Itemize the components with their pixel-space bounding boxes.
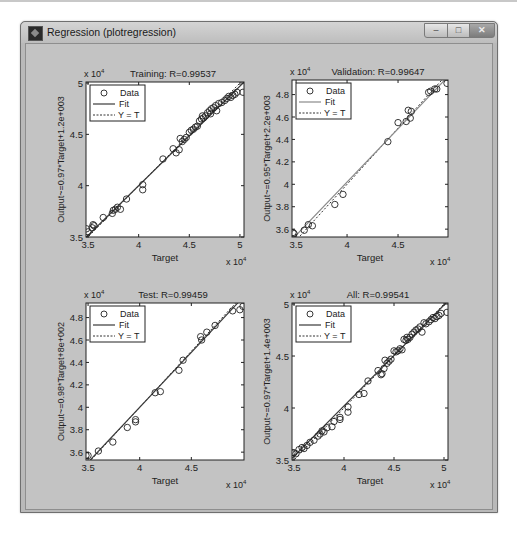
x-tick-label: 5 bbox=[237, 239, 242, 250]
legend-yt-label: Y = T bbox=[324, 331, 346, 341]
x-tick-label: 4.5 bbox=[387, 462, 400, 473]
y-exponent-label: x 104 bbox=[290, 66, 311, 77]
x-tick-label: 4.5 bbox=[391, 239, 404, 250]
y-tick-label: 4 bbox=[78, 402, 83, 413]
legend[interactable]: DataFitY = T bbox=[90, 306, 145, 342]
x-tick-label: 4 bbox=[136, 239, 141, 250]
x-tick-label: 3.5 bbox=[287, 462, 300, 473]
legend-fit-label: Fit bbox=[119, 99, 129, 109]
y-tick-label: 4 bbox=[284, 179, 289, 190]
x-tick-label: 5 bbox=[441, 462, 446, 473]
y-exponent-label: x 104 bbox=[290, 289, 311, 300]
x-exponent-label: x 104 bbox=[430, 256, 451, 267]
x-tick-label: 4 bbox=[137, 462, 142, 473]
x-exponent-label: x 104 bbox=[226, 256, 247, 267]
legend-yt-label: Y = T bbox=[118, 110, 140, 120]
y-tick-label: 4.5 bbox=[276, 351, 289, 362]
y-tick-label: 4.8 bbox=[70, 312, 83, 323]
y-exponent-label: x 104 bbox=[84, 68, 105, 79]
legend-data-label: Data bbox=[326, 86, 345, 96]
y-tick-label: 4 bbox=[78, 180, 83, 191]
x-tick-label: 3.5 bbox=[289, 239, 302, 250]
y-tick-label: 5 bbox=[284, 299, 289, 310]
x-exponent-label: x 104 bbox=[430, 479, 451, 490]
y-exponent-label: x 104 bbox=[84, 289, 105, 300]
y-tick-label: 3.8 bbox=[70, 424, 83, 435]
y-tick-label: 3.6 bbox=[276, 224, 289, 235]
y-tick-label: 4.2 bbox=[70, 379, 83, 390]
legend-data-label: Data bbox=[120, 309, 139, 319]
y-tick-label: 3.6 bbox=[70, 447, 83, 458]
x-tick-label: 4 bbox=[344, 239, 349, 250]
legend-data-label: Data bbox=[120, 88, 139, 98]
plot-all: 3.544.553.544.55All: R=0.99541TargetOutp… bbox=[262, 289, 451, 490]
y-tick-label: 4.4 bbox=[276, 134, 289, 145]
y-tick-label: 3.5 bbox=[70, 232, 83, 243]
plot-title: Validation: R=0.99647 bbox=[331, 66, 424, 77]
x-exponent-label: x 104 bbox=[226, 479, 247, 490]
y-axis-label: Output~=0.95*Target+2.2e+003 bbox=[262, 95, 272, 222]
y-tick-label: 3.5 bbox=[276, 455, 289, 466]
legend-fit-label: Fit bbox=[119, 320, 129, 330]
plot-validation: 3.544.53.63.844.24.44.64.8Validation: R=… bbox=[262, 66, 451, 267]
legend-data-label: Data bbox=[326, 309, 345, 319]
x-axis-label: Target bbox=[357, 252, 384, 263]
plot-title: Test: R=0.99459 bbox=[138, 289, 207, 300]
y-tick-label: 4.8 bbox=[276, 89, 289, 100]
x-axis-label: Target bbox=[152, 252, 179, 263]
legend-fit-label: Fit bbox=[325, 320, 335, 330]
y-axis-label: Output~=0.97*Target+1.4e+003 bbox=[262, 318, 272, 445]
y-tick-label: 4.6 bbox=[276, 112, 289, 123]
y-tick-label: 4.6 bbox=[70, 335, 83, 346]
legend-fit-label: Fit bbox=[325, 97, 335, 107]
x-tick-label: 3.5 bbox=[81, 239, 94, 250]
x-axis-label: Target bbox=[152, 475, 179, 486]
x-tick-label: 3.5 bbox=[81, 462, 94, 473]
y-tick-label: 4.4 bbox=[70, 357, 83, 368]
plot-title: All: R=0.99541 bbox=[347, 289, 410, 300]
y-axis-label: Output~=0.97*Target+1.2e+003 bbox=[56, 96, 66, 223]
y-tick-label: 3.8 bbox=[276, 201, 289, 212]
legend-yt-label: Y = T bbox=[118, 331, 140, 341]
legend[interactable]: DataFitY = T bbox=[296, 306, 351, 342]
x-axis-label: Target bbox=[357, 475, 384, 486]
plot-title: Training: R=0.99537 bbox=[130, 68, 216, 79]
x-tick-label: 4.5 bbox=[183, 239, 196, 250]
regression-plots: 3.544.553.544.55Training: R=0.99537Targe… bbox=[0, 0, 517, 535]
legend[interactable]: DataFitY = T bbox=[90, 85, 145, 121]
x-tick-label: 4 bbox=[341, 462, 346, 473]
plot-test: 3.544.53.63.844.24.44.64.8Test: R=0.9945… bbox=[56, 289, 247, 490]
y-axis-label: Output~=0.98*Target+8e+002 bbox=[56, 322, 66, 441]
y-tick-label: 5 bbox=[78, 78, 83, 89]
plot-training: 3.544.553.544.55Training: R=0.99537Targe… bbox=[56, 68, 247, 267]
legend-yt-label: Y = T bbox=[324, 108, 346, 118]
legend[interactable]: DataFitY = T bbox=[296, 83, 351, 119]
y-tick-label: 4.2 bbox=[276, 156, 289, 167]
y-tick-label: 4 bbox=[284, 403, 289, 414]
y-tick-label: 4.5 bbox=[70, 129, 83, 140]
x-tick-label: 4.5 bbox=[185, 462, 198, 473]
